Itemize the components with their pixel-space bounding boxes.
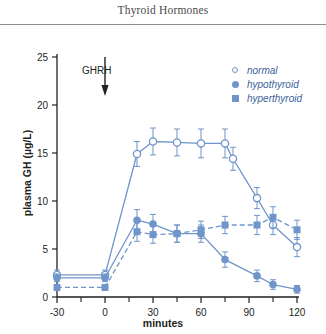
data-point <box>102 284 109 291</box>
y-tick-label: 20 <box>37 100 49 111</box>
legend-label: normal <box>242 65 278 76</box>
chart-page: Thyroid Hormones 0510152025-300306090120… <box>0 0 326 334</box>
page-title: Thyroid Hormones <box>0 4 326 16</box>
header-divider <box>0 24 326 25</box>
data-point <box>253 195 260 202</box>
data-point <box>253 272 261 280</box>
legend-label: hyperthyroid <box>242 93 302 104</box>
data-point <box>149 138 156 145</box>
y-tick-label: 5 <box>42 244 48 255</box>
data-point <box>293 286 301 294</box>
data-point <box>229 155 236 162</box>
y-tick-label: 10 <box>37 196 49 207</box>
open-circle-icon <box>228 67 242 73</box>
data-point <box>293 243 300 250</box>
data-point <box>221 256 229 264</box>
data-point <box>173 139 180 146</box>
page-header: Thyroid Hormones <box>0 0 326 27</box>
down-arrow-icon <box>101 57 108 96</box>
data-point <box>221 140 228 147</box>
data-point <box>101 274 109 282</box>
data-point <box>133 150 140 157</box>
y-tick-label: 0 <box>42 292 48 303</box>
y-axis-label: plasma GH (µg/L) <box>21 98 33 248</box>
data-point <box>53 274 61 282</box>
legend: normal hypothyroid hyperthyroid <box>228 63 324 105</box>
figure: 0510152025-300306090120 plasma GH (µg/L)… <box>0 27 326 334</box>
data-point <box>54 284 61 291</box>
data-point <box>197 140 204 147</box>
y-tick-label: 15 <box>37 148 49 159</box>
y-tick-label: 25 <box>37 52 49 63</box>
data-point <box>150 231 157 238</box>
data-point <box>254 222 261 229</box>
data-point <box>174 230 181 237</box>
filled-circle-icon <box>228 81 242 88</box>
ghrh-annotation-label: GHRH <box>82 65 111 76</box>
data-point <box>198 226 205 233</box>
data-point <box>294 226 301 233</box>
data-point <box>134 228 141 235</box>
data-point <box>222 222 229 229</box>
data-point <box>270 214 277 221</box>
filled-square-icon <box>228 95 242 102</box>
legend-item-hypothyroid: hypothyroid <box>228 77 324 91</box>
x-axis-label: minutes <box>0 317 326 329</box>
legend-item-normal: normal <box>228 63 324 77</box>
data-point <box>269 281 277 289</box>
series-normal <box>53 128 300 280</box>
legend-item-hyperthyroid: hyperthyroid <box>228 91 324 105</box>
legend-label: hypothyroid <box>242 79 299 90</box>
